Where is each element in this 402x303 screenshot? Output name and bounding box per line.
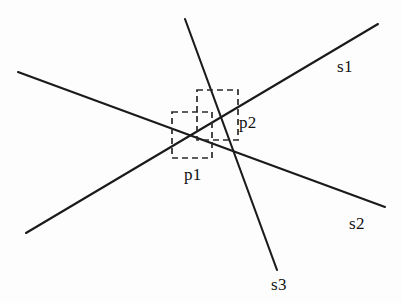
region-label-p1: p1 (184, 166, 202, 183)
segment-s2 (18, 72, 385, 207)
region-label-p2: p2 (239, 114, 257, 131)
segment-s1 (26, 24, 378, 233)
segment-s3 (185, 19, 277, 270)
segment-label-s2: s2 (349, 215, 365, 232)
region-box-p2 (197, 90, 238, 140)
segment-label-s3: s3 (271, 276, 287, 293)
figure-canvas: s1 s2 s3 p1 p2 (0, 0, 402, 303)
segment-label-s1: s1 (337, 58, 353, 75)
line-intersection-diagram (0, 0, 402, 303)
